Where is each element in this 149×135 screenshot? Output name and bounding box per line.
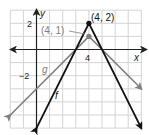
x-axis-label: x — [133, 52, 140, 63]
vertex-f-label: (4, 2) — [91, 12, 114, 23]
y-axis-label: y — [39, 8, 46, 19]
vertex-g-point — [86, 34, 91, 39]
graph: y x 2 −2 4 (4, 2) (4, 1) g f — [0, 0, 149, 135]
vertex-g-label: (4, 1) — [41, 25, 64, 36]
tick-label-x4: 4 — [85, 53, 90, 63]
tick-label-y2: 2 — [27, 19, 32, 29]
label-f: f — [55, 90, 59, 101]
leader-line — [69, 31, 85, 34]
label-g: g — [42, 64, 48, 75]
tick-label-yneg2: −2 — [19, 71, 29, 81]
